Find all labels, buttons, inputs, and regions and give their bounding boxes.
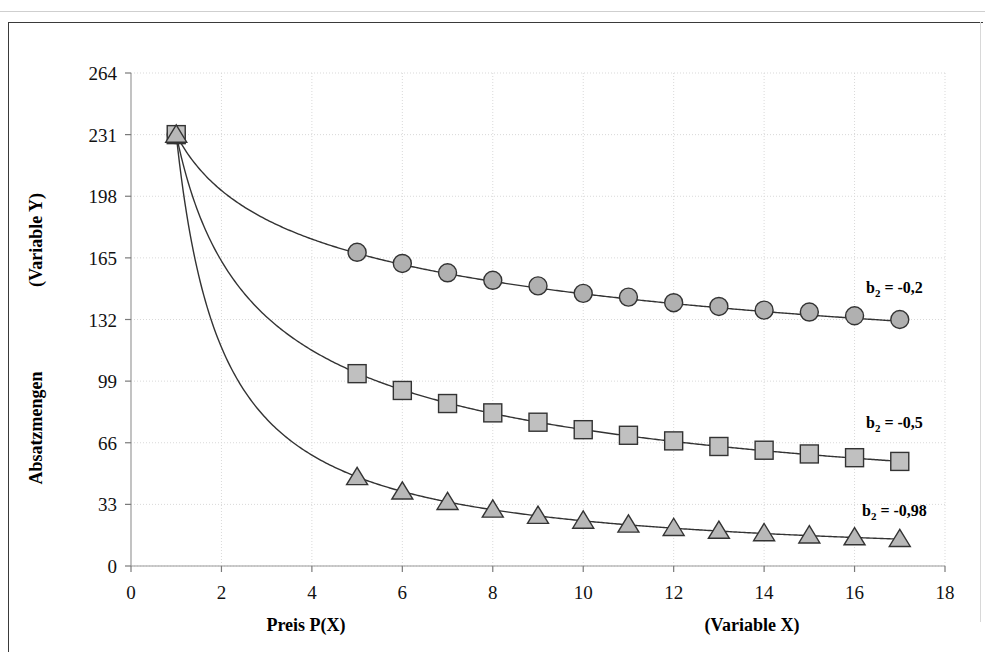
data-point-triangle (708, 521, 729, 538)
data-point-square (439, 395, 457, 413)
x-tick-label: 16 (845, 582, 864, 603)
series-label-symbol: b (866, 414, 875, 431)
data-point-circle (891, 311, 909, 329)
x-axis-tick-labels: 024681012141618 (126, 582, 954, 603)
data-point-circle (755, 301, 773, 319)
data-point-circle (439, 264, 457, 282)
series-line (176, 135, 900, 540)
data-point-square (710, 437, 728, 455)
data-point-circle (665, 294, 683, 312)
y-tick-label: 99 (98, 371, 117, 392)
series-label-value: = -0,5 (880, 414, 922, 431)
data-point-triangle (754, 523, 775, 540)
data-point-circle (710, 297, 728, 315)
x-tick-label: 4 (307, 582, 317, 603)
data-point-square (665, 432, 683, 450)
series-line (176, 135, 900, 462)
x-tick-label: 18 (936, 582, 955, 603)
data-point-triangle (889, 529, 910, 546)
x-tick-label: 0 (126, 582, 136, 603)
y-tick-label: 198 (89, 186, 118, 207)
y-axis-tick-labels: 0336699132165198231264 (89, 63, 118, 577)
y-tick-label: 0 (108, 556, 118, 577)
data-point-square (800, 445, 818, 463)
data-point-square (891, 452, 909, 470)
data-point-circle (846, 307, 864, 325)
y-axis-title-secondary: (Variable Y) (26, 193, 47, 287)
data-point-triangle (618, 515, 639, 532)
series-label-value: = -0,98 (876, 502, 926, 519)
data-point-circle (393, 254, 411, 272)
data-point-circle (484, 271, 502, 289)
series-label-symbol: b (866, 279, 875, 296)
series-triangle (166, 125, 911, 547)
axis-titles: Preis P(X)(Variable X)Absatzmengen(Varia… (26, 193, 799, 636)
data-point-square (619, 426, 637, 444)
data-point-square (529, 413, 547, 431)
x-tick-label: 6 (398, 582, 408, 603)
y-tick-label: 264 (89, 63, 118, 84)
data-point-circle (800, 303, 818, 321)
y-tick-label: 33 (98, 494, 117, 515)
data-point-triangle (392, 482, 413, 499)
data-point-circle (348, 243, 366, 261)
series-label-square: b2 = -0,5 (866, 414, 923, 434)
data-point-square (348, 365, 366, 383)
series-label-value: = -0,2 (880, 279, 922, 296)
data-point-triangle (844, 528, 865, 545)
x-tick-label: 8 (488, 582, 498, 603)
gridlines (131, 73, 945, 566)
x-axis-title-secondary: (Variable X) (705, 615, 800, 636)
y-axis-title: Absatzmengen (26, 372, 46, 485)
x-tick-label: 12 (664, 582, 683, 603)
data-point-square (393, 381, 411, 399)
power-function-chart: 0336699132165198231264 024681012141618 b… (0, 0, 985, 658)
data-point-circle (574, 284, 592, 302)
data-point-circle (619, 288, 637, 306)
data-point-square (484, 404, 502, 422)
x-axis-title: Preis P(X) (266, 615, 345, 636)
series-label-triangle: b2 = -0,98 (862, 502, 927, 522)
data-point-triangle (347, 467, 368, 484)
y-tick-label: 165 (89, 248, 118, 269)
axis-lines (125, 73, 945, 572)
data-point-triangle (663, 518, 684, 535)
x-tick-label: 14 (755, 582, 775, 603)
data-point-square (846, 449, 864, 467)
y-tick-label: 132 (89, 310, 118, 331)
x-tick-label: 10 (574, 582, 593, 603)
series-square (167, 126, 909, 471)
x-tick-label: 2 (217, 582, 227, 603)
y-tick-label: 66 (98, 433, 117, 454)
series-label-circle: b2 = -0,2 (866, 279, 923, 299)
data-point-square (755, 441, 773, 459)
data-point-square (574, 421, 592, 439)
data-series-layer (166, 125, 911, 547)
y-tick-label: 231 (89, 125, 118, 146)
series-circle (167, 126, 909, 329)
series-label-symbol: b (862, 502, 871, 519)
data-point-triangle (799, 526, 820, 543)
data-point-circle (529, 277, 547, 295)
plot-area-wrapper: 0336699132165198231264 024681012141618 b… (0, 0, 985, 658)
chart-page: 0336699132165198231264 024681012141618 b… (0, 0, 985, 658)
